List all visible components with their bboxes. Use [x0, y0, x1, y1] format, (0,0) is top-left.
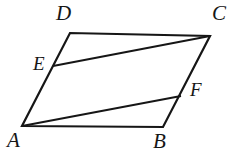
geometry-figure: D C E F A B [0, 0, 233, 152]
vertex-label-d: D [56, 3, 71, 24]
figure-background [0, 0, 233, 152]
vertex-label-e: E [33, 54, 45, 73]
figure-canvas [0, 0, 233, 152]
vertex-label-c: C [212, 3, 226, 24]
vertex-label-a: A [7, 130, 20, 151]
vertex-label-f: F [190, 80, 202, 99]
vertex-label-b: B [153, 131, 166, 152]
